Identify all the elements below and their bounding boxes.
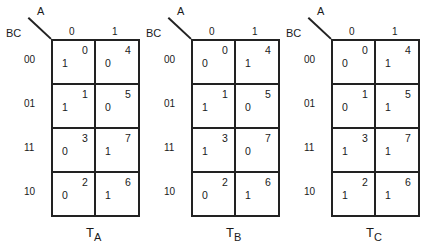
minterm-index: 6 <box>125 177 131 188</box>
kmap-cell: 10 <box>53 41 95 83</box>
kmap-cell: 05 <box>96 85 138 127</box>
cell-value: 1 <box>385 58 391 69</box>
minterm-index: 5 <box>405 89 411 100</box>
column-label-1: 1 <box>112 26 118 37</box>
kmap-cell: 03 <box>53 129 95 171</box>
column-label-0: 0 <box>209 26 215 37</box>
column-label-0: 0 <box>349 26 355 37</box>
cell-value: 1 <box>385 146 391 157</box>
kmap-cell: 17 <box>96 129 138 171</box>
cell-value: 0 <box>342 102 348 113</box>
cell-value: 0 <box>105 102 111 113</box>
row-label-11: 11 <box>164 143 174 153</box>
column-label-0: 0 <box>69 26 75 37</box>
row-label-01: 01 <box>24 99 35 109</box>
minterm-index: 5 <box>125 89 131 100</box>
minterm-index: 0 <box>222 45 228 56</box>
column-variable-label: A <box>37 6 44 17</box>
minterm-index: 7 <box>405 133 411 144</box>
cell-value: 1 <box>202 102 208 113</box>
minterm-index: 4 <box>265 45 271 56</box>
map-title-subscript: B <box>234 231 241 243</box>
kmap-cell: 13 <box>333 129 375 171</box>
map-title-subscript: A <box>94 231 101 243</box>
minterm-index: 7 <box>125 133 131 144</box>
kmap-cell: 15 <box>376 85 418 127</box>
map-title-base: T <box>226 225 234 240</box>
cell-value: 0 <box>105 58 111 69</box>
kmap-cell: 14 <box>376 41 418 83</box>
kmap-cell: 11 <box>193 85 235 127</box>
minterm-index: 1 <box>82 89 88 100</box>
cell-value: 1 <box>62 58 68 69</box>
kmap-cell: 12 <box>333 173 375 215</box>
minterm-index: 6 <box>265 177 271 188</box>
cell-value: 1 <box>385 102 391 113</box>
cell-value: 1 <box>245 58 251 69</box>
cell-value: 0 <box>202 190 208 201</box>
column-label-1: 1 <box>392 26 398 37</box>
cell-value: 0 <box>62 190 68 201</box>
karnaugh-map-tc: A BC 0 1 00 01 11 10 0014011513171216 TC <box>280 0 421 247</box>
cell-value: 1 <box>105 146 111 157</box>
kmap-cell: 01 <box>333 85 375 127</box>
row-label-10: 10 <box>304 187 315 197</box>
corner-diagonal <box>168 17 192 40</box>
kmap-cell: 16 <box>96 173 138 215</box>
row-label-11: 11 <box>24 143 34 153</box>
minterm-index: 4 <box>125 45 131 56</box>
kmap-cell: 16 <box>236 173 278 215</box>
corner-diagonal <box>308 17 332 40</box>
kmap-cell: 02 <box>53 173 95 215</box>
corner-diagonal <box>28 17 52 40</box>
row-label-10: 10 <box>164 187 175 197</box>
kmap-cell: 14 <box>236 41 278 83</box>
karnaugh-map-ta: A BC 0 1 00 01 11 10 1004110503170216 TA <box>0 0 141 247</box>
kmap-cell: 00 <box>193 41 235 83</box>
cell-value: 1 <box>342 146 348 157</box>
kmap-cell: 16 <box>376 173 418 215</box>
map-title-subscript: C <box>374 231 382 243</box>
cell-value: 1 <box>105 190 111 201</box>
row-variable-label: BC <box>6 28 21 39</box>
minterm-index: 2 <box>362 177 368 188</box>
row-label-00: 00 <box>304 55 315 65</box>
minterm-index: 4 <box>405 45 411 56</box>
cell-value: 1 <box>342 190 348 201</box>
minterm-index: 1 <box>222 89 228 100</box>
map-title-base: T <box>86 225 94 240</box>
kmap-cell: 11 <box>53 85 95 127</box>
row-variable-label: BC <box>286 28 301 39</box>
cell-value: 1 <box>245 190 251 201</box>
minterm-index: 5 <box>265 89 271 100</box>
kmap-cell: 05 <box>236 85 278 127</box>
cell-value: 0 <box>245 102 251 113</box>
kmap-cell: 02 <box>193 173 235 215</box>
row-label-11: 11 <box>304 143 314 153</box>
row-label-01: 01 <box>164 99 175 109</box>
map-title-base: T <box>366 225 374 240</box>
row-variable-label: BC <box>146 28 161 39</box>
minterm-index: 3 <box>222 133 228 144</box>
cell-value: 0 <box>202 58 208 69</box>
cell-value: 1 <box>385 190 391 201</box>
cell-value: 1 <box>202 146 208 157</box>
map-title: TB <box>226 226 241 239</box>
cell-value: 0 <box>342 58 348 69</box>
minterm-index: 6 <box>405 177 411 188</box>
column-variable-label: A <box>317 6 324 17</box>
minterm-index: 2 <box>222 177 228 188</box>
minterm-index: 3 <box>362 133 368 144</box>
map-title: TA <box>86 226 101 239</box>
cell-value: 1 <box>62 102 68 113</box>
kmap-cell: 00 <box>333 41 375 83</box>
column-variable-label: A <box>177 6 184 17</box>
cell-value: 0 <box>62 146 68 157</box>
minterm-index: 2 <box>82 177 88 188</box>
map-title: TC <box>366 226 382 239</box>
minterm-index: 3 <box>82 133 88 144</box>
minterm-index: 0 <box>82 45 88 56</box>
row-label-01: 01 <box>304 99 315 109</box>
column-label-1: 1 <box>252 26 258 37</box>
minterm-index: 1 <box>362 89 368 100</box>
